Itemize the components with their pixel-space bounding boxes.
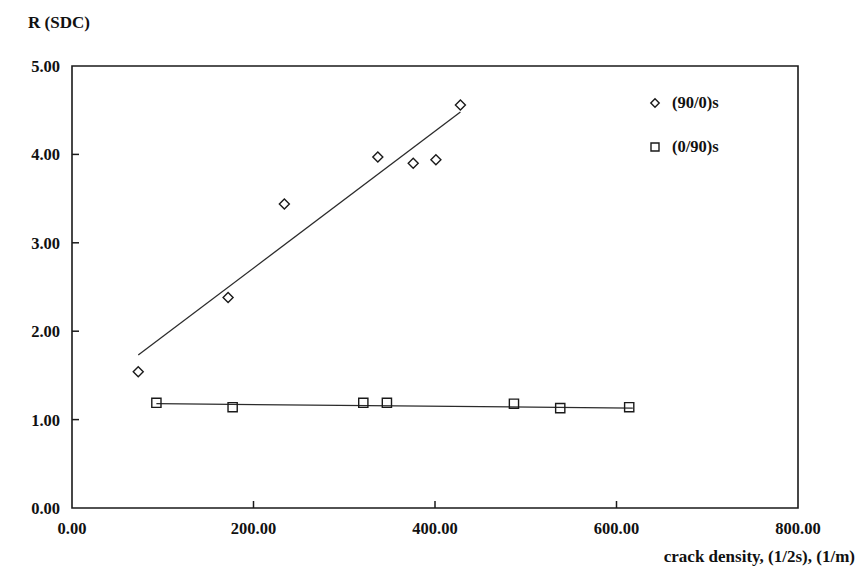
- x-tick-label: 600.00: [594, 519, 639, 538]
- data-point-diamond: [279, 199, 289, 209]
- plot-frame: [72, 66, 798, 508]
- y-tick-label: 5.00: [31, 57, 60, 76]
- data-point-square: [152, 398, 161, 407]
- y-tick-label: 1.00: [31, 411, 60, 430]
- y-tick-label: 3.00: [31, 234, 60, 253]
- x-tick-label: 400.00: [412, 519, 457, 538]
- x-axis-label: crack density, (1/2s), (1/m): [664, 547, 855, 566]
- data-point-diamond: [373, 152, 383, 162]
- y-axis-label: R (SDC): [28, 13, 90, 32]
- data-point-diamond: [431, 155, 441, 165]
- axis-ticks: [72, 154, 617, 508]
- data-point-square: [625, 403, 634, 412]
- y-axis-tick-labels: 0.001.002.003.004.005.00: [31, 57, 60, 518]
- data-point-diamond: [133, 367, 143, 377]
- scatter-plot: 0.00200.00400.00600.00800.00 0.001.002.0…: [0, 0, 863, 587]
- data-point-diamond: [408, 158, 418, 168]
- x-axis-tick-labels: 0.00200.00400.00600.00800.00: [58, 519, 821, 538]
- y-tick-label: 2.00: [31, 322, 60, 341]
- chart-figure: 0.00200.00400.00600.00800.00 0.001.002.0…: [0, 0, 863, 587]
- plot-border: [72, 66, 798, 508]
- trend-lines: [138, 112, 633, 408]
- trend-line-series-0: [138, 112, 460, 355]
- y-tick-label: 4.00: [31, 145, 60, 164]
- legend-label: (0/90)s: [672, 137, 719, 156]
- legend-marker-square: [651, 143, 659, 151]
- legend: (90/0)s(0/90)s: [651, 93, 720, 156]
- y-tick-label: 0.00: [31, 499, 60, 518]
- data-point-diamond: [223, 293, 233, 303]
- x-tick-label: 200.00: [231, 519, 276, 538]
- x-tick-label: 0.00: [58, 519, 87, 538]
- x-tick-label: 800.00: [775, 519, 820, 538]
- data-point-diamond: [455, 100, 465, 110]
- legend-label: (90/0)s: [672, 93, 719, 112]
- legend-marker-diamond: [651, 99, 659, 107]
- data-point-markers: [133, 100, 634, 413]
